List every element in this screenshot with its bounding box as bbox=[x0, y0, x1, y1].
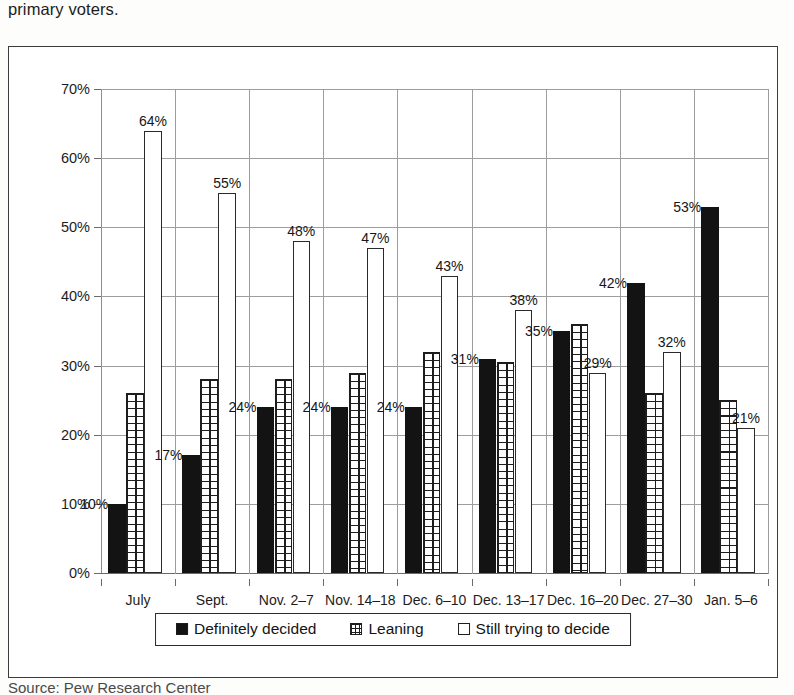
y-tick-mark bbox=[94, 573, 101, 574]
bar-value-label: 38% bbox=[510, 292, 538, 308]
bar-value-label: 48% bbox=[287, 223, 315, 239]
bar[interactable]: 24% bbox=[331, 407, 349, 573]
legend-swatch-solid bbox=[176, 623, 188, 635]
bar[interactable]: 29% bbox=[589, 373, 607, 574]
bar[interactable]: 24% bbox=[405, 407, 423, 573]
x-axis-line bbox=[101, 573, 769, 574]
x-tick-mark bbox=[249, 579, 250, 586]
x-tick-mark bbox=[546, 579, 547, 586]
legend-item-label: Leaning bbox=[368, 620, 423, 638]
x-axis-category-label: Dec. 16–20 bbox=[547, 592, 619, 608]
bar[interactable]: 35% bbox=[553, 331, 571, 573]
x-tick-mark bbox=[694, 579, 695, 586]
x-tick-mark bbox=[101, 579, 102, 586]
legend-item[interactable]: Leaning bbox=[350, 620, 423, 638]
bar[interactable]: 31% bbox=[479, 359, 497, 573]
y-axis-tick-label: 70% bbox=[61, 81, 90, 97]
bar-group: 24%43% bbox=[397, 89, 471, 573]
x-tick-mark bbox=[768, 579, 769, 586]
y-tick-mark bbox=[94, 296, 101, 297]
bar[interactable] bbox=[126, 393, 144, 573]
legend-swatch-open bbox=[458, 623, 470, 635]
y-axis-tick-label: 30% bbox=[61, 358, 90, 374]
bar-group: 42%32% bbox=[620, 89, 694, 573]
bar-value-label: 10% bbox=[80, 496, 108, 512]
x-axis-category-label: Dec. 13–17 bbox=[473, 592, 545, 608]
bar-value-label: 42% bbox=[599, 275, 627, 291]
legend-item-label: Still trying to decide bbox=[476, 620, 610, 638]
bar[interactable]: 43% bbox=[441, 276, 459, 573]
legend-item-label: Definitely decided bbox=[194, 620, 316, 638]
chart-legend: Definitely decidedLeaningStill trying to… bbox=[155, 613, 631, 646]
bar-value-label: 35% bbox=[525, 323, 553, 339]
chart-frame: 0%10%20%30%40%50%60%70%10%64%17%55%24%48… bbox=[8, 46, 778, 678]
chart-page: primary voters. 0%10%20%30%40%50%60%70%1… bbox=[0, 0, 794, 695]
legend-item[interactable]: Definitely decided bbox=[176, 620, 316, 638]
x-axis-category-label: Nov. 14–18 bbox=[325, 592, 396, 608]
y-tick-mark bbox=[94, 435, 101, 436]
x-axis-labels: JulySept.Nov. 2–7Nov. 14–18Dec. 6–10Dec.… bbox=[101, 579, 769, 613]
group-separator bbox=[768, 89, 769, 574]
bar-value-label: 47% bbox=[361, 230, 389, 246]
x-tick-mark bbox=[472, 579, 473, 586]
legend-swatch-grid bbox=[350, 623, 362, 635]
bar[interactable]: 17% bbox=[182, 455, 200, 573]
bar[interactable] bbox=[497, 362, 515, 573]
x-tick-mark bbox=[620, 579, 621, 586]
x-axis-category-label: Dec. 27–30 bbox=[621, 592, 693, 608]
bar[interactable]: 38% bbox=[515, 310, 533, 573]
bar-value-label: 31% bbox=[451, 351, 479, 367]
x-tick-mark bbox=[323, 579, 324, 586]
y-axis-tick-label: 20% bbox=[61, 427, 90, 443]
x-axis-category-label: Nov. 2–7 bbox=[259, 592, 314, 608]
bar-group: 53%21% bbox=[694, 89, 768, 573]
bar-value-label: 53% bbox=[673, 199, 701, 215]
bar[interactable] bbox=[719, 400, 737, 573]
bar[interactable]: 10% bbox=[108, 504, 126, 573]
y-axis-tick-label: 50% bbox=[61, 219, 90, 235]
bar-group: 10%64% bbox=[101, 89, 175, 573]
bar[interactable]: 53% bbox=[701, 207, 719, 573]
bar[interactable] bbox=[349, 373, 367, 574]
x-axis-category-label: Sept. bbox=[196, 592, 229, 608]
caption-below-text: Source: Pew Research Center bbox=[8, 682, 778, 695]
bar[interactable]: 55% bbox=[218, 193, 236, 573]
bar-group: 17%55% bbox=[175, 89, 249, 573]
bar[interactable]: 21% bbox=[737, 428, 755, 573]
y-tick-mark bbox=[94, 158, 101, 159]
bar-group: 24%47% bbox=[323, 89, 397, 573]
caption-below-chart: Source: Pew Research Center bbox=[8, 682, 778, 695]
bar-value-label: 24% bbox=[377, 399, 405, 415]
x-axis-category-label: July bbox=[126, 592, 151, 608]
bar-group: 24%48% bbox=[249, 89, 323, 573]
bar[interactable] bbox=[275, 379, 293, 573]
bar[interactable] bbox=[645, 393, 663, 573]
bar-value-label: 64% bbox=[139, 113, 167, 129]
bar-value-label: 21% bbox=[732, 410, 760, 426]
y-tick-mark bbox=[94, 366, 101, 367]
bar-value-label: 43% bbox=[435, 258, 463, 274]
y-tick-mark bbox=[94, 89, 101, 90]
y-axis-tick-label: 0% bbox=[69, 565, 90, 581]
bar[interactable]: 24% bbox=[257, 407, 275, 573]
bar-group: 35%29% bbox=[546, 89, 620, 573]
bar[interactable]: 42% bbox=[627, 283, 645, 573]
bar-value-label: 32% bbox=[658, 334, 686, 350]
bar-value-label: 55% bbox=[213, 175, 241, 191]
x-axis-category-label: Dec. 6–10 bbox=[403, 592, 467, 608]
x-tick-mark bbox=[397, 579, 398, 586]
bar[interactable] bbox=[423, 352, 441, 573]
plot-area: 0%10%20%30%40%50%60%70%10%64%17%55%24%48… bbox=[101, 89, 768, 573]
y-tick-mark bbox=[94, 227, 101, 228]
caption-above-chart: primary voters. bbox=[8, 0, 119, 19]
bar-value-label: 24% bbox=[228, 399, 256, 415]
bar[interactable]: 64% bbox=[144, 131, 162, 574]
bar-value-label: 17% bbox=[154, 447, 182, 463]
y-axis-tick-label: 40% bbox=[61, 288, 90, 304]
bar-value-label: 29% bbox=[584, 355, 612, 371]
bar[interactable] bbox=[200, 379, 218, 573]
legend-item[interactable]: Still trying to decide bbox=[458, 620, 610, 638]
x-axis-category-label: Jan. 5–6 bbox=[704, 592, 758, 608]
bar[interactable]: 32% bbox=[663, 352, 681, 573]
x-tick-mark bbox=[175, 579, 176, 586]
